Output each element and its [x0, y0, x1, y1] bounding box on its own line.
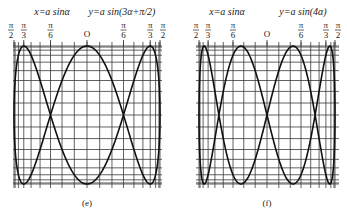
tick-label-numerator: π [324, 20, 329, 30]
tick-label-numerator: π [336, 20, 341, 30]
panel-caption: (f) [263, 198, 272, 208]
tick-label-denominator: 2 [336, 30, 341, 40]
panel-caption: (e) [82, 198, 92, 208]
tick-label-numerator: π [9, 20, 14, 30]
tick-label-denominator: 2 [161, 30, 166, 40]
tick-label-denominator: 3 [148, 30, 153, 40]
tick-label-denominator: 3 [324, 30, 329, 40]
tick-label-denominator: 6 [231, 30, 236, 40]
y-equation-label: y=a sin(4α) [278, 6, 327, 18]
tick-label-denominator: 2 [194, 30, 199, 40]
tick-label-numerator: π [206, 20, 211, 30]
y-equation-label: y=a sin(3α+π/2) [88, 6, 156, 18]
tick-label-denominator: 3 [206, 30, 211, 40]
tick-label-denominator: 3 [22, 30, 27, 40]
tick-label-numerator: π [121, 20, 126, 30]
tick-label-numerator: π [231, 20, 236, 30]
tick-label-numerator: π [161, 20, 166, 30]
panel-f: x=a sinα y=a sin(4α) π2π3π6Oπ6π3π2 (f) [193, 6, 341, 208]
tick-label-denominator: 6 [121, 30, 126, 40]
tick-label-denominator: 6 [299, 30, 304, 40]
x-equation-label: x=a sinα [208, 6, 245, 17]
tick-label-numerator: π [194, 20, 199, 30]
angle-tick-labels: π2π3π6Oπ6π3π2 [8, 20, 166, 46]
lissajous-figure: x=a sinα y=a sin(3α+π/2) π2π3π6Oπ6π3π2 (… [0, 0, 347, 219]
tick-label-numerator: π [299, 20, 304, 30]
x-equation-label: x=a sinα [33, 6, 70, 17]
tick-label-numerator: π [22, 20, 27, 30]
tick-label-numerator: π [148, 20, 153, 30]
panel-e: x=a sinα y=a sin(3α+π/2) π2π3π6Oπ6π3π2 (… [8, 6, 166, 208]
tick-label-denominator: 2 [9, 30, 14, 40]
tick-label-numerator: π [48, 20, 53, 30]
origin-label: O [84, 29, 91, 39]
tick-label-denominator: 6 [48, 30, 53, 40]
origin-label: O [264, 29, 271, 39]
